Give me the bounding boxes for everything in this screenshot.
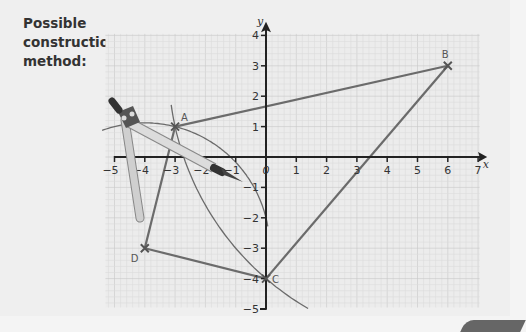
x-tick-label: 6: [444, 164, 451, 177]
x-tick-label: 0: [263, 164, 270, 177]
x-tick-label: 5: [414, 164, 421, 177]
y-tick-label: 2: [252, 90, 259, 103]
compass-pencil-holder: [214, 168, 222, 172]
x-tick-label: 2: [323, 164, 330, 177]
y-tick-label: 1: [252, 121, 259, 134]
point-label-B: B: [442, 49, 449, 60]
x-tick-label: −5: [102, 164, 118, 177]
x-tick-label: 7: [475, 164, 482, 177]
point-label-A: A: [181, 112, 188, 123]
y-tick-label: −5: [243, 303, 259, 316]
x-tick-label: 3: [353, 164, 360, 177]
y-axis-label: y: [256, 15, 264, 28]
y-tick-label: 3: [252, 60, 259, 73]
y-tick-label: −2: [243, 212, 259, 225]
point-label-C: C: [272, 274, 279, 285]
x-tick-label: 1: [293, 164, 300, 177]
y-tick-label: −3: [243, 242, 259, 255]
y-tick-label: −4: [243, 273, 259, 286]
y-tick-label: 4: [252, 29, 259, 42]
y-tick-label: −1: [243, 181, 259, 194]
page-tab: [460, 320, 526, 332]
x-axis-label: x: [483, 158, 490, 171]
x-tick-label: 4: [384, 164, 391, 177]
x-tick-label: −3: [163, 164, 179, 177]
point-label-D: D: [131, 253, 139, 264]
